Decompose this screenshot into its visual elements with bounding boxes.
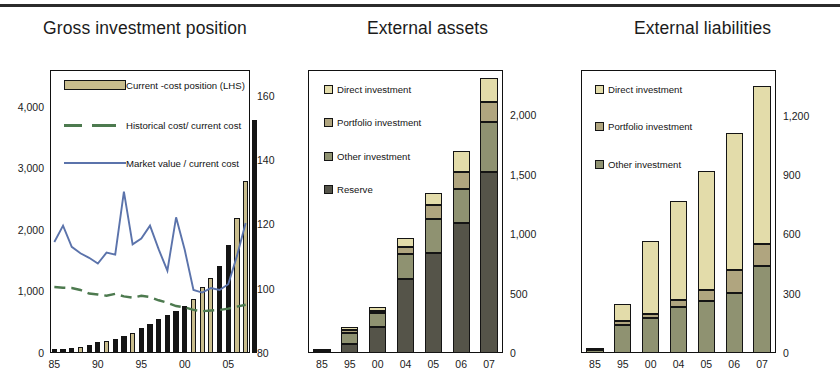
x-axis-tick-06: 06 — [728, 359, 740, 370]
legend-external-liabilities: Direct investmentPortfolio investmentOth… — [595, 84, 692, 196]
legend-item-market-value: Market value / current cost — [64, 158, 239, 170]
segment-direct-investment-04 — [670, 201, 687, 300]
y-axis-right-tick-80: 80 — [257, 348, 269, 359]
line-series-overlay — [50, 70, 250, 353]
line-historical-cost-over-current-cost — [54, 287, 245, 311]
stacked-bar-06 — [453, 151, 470, 353]
stacked-bar-00 — [642, 241, 659, 353]
x-axis-tick-90: 90 — [92, 359, 104, 370]
segment-other-investment-05 — [698, 301, 715, 353]
legend-label-historical-cost: Historical cost/ current cost — [126, 120, 241, 132]
legend-label-market-value: Market value / current cost — [126, 158, 239, 170]
x-axis-tick-00: 00 — [372, 359, 384, 370]
segment-portfolio-investment-04 — [670, 300, 687, 308]
legend-swatch-direct-investment — [324, 85, 333, 94]
segment-direct-investment-95 — [614, 304, 631, 321]
segment-direct-investment-00 — [642, 241, 659, 314]
stacked-bar-06 — [726, 133, 743, 353]
legend-label-portfolio-investment: Portfolio investment — [608, 121, 692, 132]
legend-item-current-cost-position: Current -cost position (LHS) — [64, 80, 245, 92]
stacked-bar-07 — [480, 78, 497, 353]
x-axis-tick-06: 06 — [455, 359, 467, 370]
segment-direct-investment-00 — [369, 307, 386, 311]
segment-direct-investment-85 — [586, 348, 603, 350]
legend-external-assets: Direct investmentPortfolio investmentOth… — [324, 84, 421, 218]
top-divider-rule — [0, 4, 840, 7]
segment-direct-investment-05 — [425, 193, 442, 205]
legend-item-other-investment: Other investment — [324, 151, 421, 162]
segment-direct-investment-07 — [753, 86, 770, 244]
y-axis-left-tick-1,000: 1,000 — [6, 286, 44, 297]
legend-item-portfolio-investment: Portfolio investment — [324, 117, 421, 128]
segment-direct-investment-05 — [698, 171, 715, 290]
x-axis-tick-07: 07 — [756, 359, 768, 370]
segment-portfolio-investment-07 — [753, 244, 770, 266]
legend-item-direct-investment: Direct investment — [595, 84, 692, 95]
line-market-value-over-current-cost — [54, 192, 245, 293]
stacked-bar-05 — [698, 171, 715, 353]
legend-item-other-investment: Other investment — [595, 159, 692, 170]
x-axis-tick-85: 85 — [589, 359, 601, 370]
y-axis-left-tick-3,000: 3,000 — [6, 163, 44, 174]
y-axis-left-tick-4,000: 4,000 — [6, 102, 44, 113]
segment-other-investment-07 — [480, 122, 497, 172]
segment-other-investment-95 — [341, 333, 358, 344]
segment-portfolio-investment-00 — [642, 314, 659, 318]
segment-direct-investment-07 — [480, 78, 497, 102]
stacked-bar-85 — [313, 351, 330, 353]
legend-label-direct-investment: Direct investment — [337, 84, 411, 95]
segment-portfolio-investment-05 — [698, 290, 715, 301]
segment-other-investment-85 — [586, 350, 603, 353]
legend-item-portfolio-investment: Portfolio investment — [595, 121, 692, 132]
y-axis-tick-2,000: 2,000 — [510, 110, 536, 121]
segment-portfolio-investment-07 — [480, 102, 497, 122]
segment-reserve-95 — [341, 344, 358, 353]
stacked-bar-07 — [753, 86, 770, 353]
segment-portfolio-investment-06 — [726, 270, 743, 293]
legend-swatch-historical-cost — [64, 120, 126, 130]
segment-reserve-06 — [453, 223, 470, 353]
segment-direct-investment-85 — [313, 349, 330, 351]
plot-area-gross-investment-position: Current -cost position (LHS) Historical … — [50, 70, 250, 353]
y-axis-right-tick-160: 160 — [257, 90, 275, 101]
y-axis-tick-300: 300 — [783, 288, 801, 299]
stacked-bar-95 — [341, 327, 358, 353]
plot-area-external-assets: Direct investmentPortfolio investmentOth… — [308, 70, 503, 353]
stacked-bar-04 — [670, 201, 687, 353]
legend-swatch-direct-investment — [595, 85, 604, 94]
legend-label-current-cost-position: Current -cost position (LHS) — [126, 80, 245, 92]
legend-label-other-investment: Other investment — [608, 159, 681, 170]
x-axis-tick-05: 05 — [222, 359, 234, 370]
legend-item-reserve: Reserve — [324, 184, 421, 195]
segment-other-investment-04 — [397, 254, 414, 280]
legend-item-direct-investment: Direct investment — [324, 84, 421, 95]
segment-reserve-07 — [480, 172, 497, 353]
y-axis-right-tick-140: 140 — [257, 155, 275, 166]
panel-title-external-assets: External assets — [290, 10, 565, 39]
segment-other-investment-00 — [369, 313, 386, 327]
legend-swatch-portfolio-investment — [595, 122, 604, 131]
panel-external-assets: External assets Direct investmentPortfol… — [290, 10, 565, 389]
segment-direct-investment-95 — [341, 327, 358, 331]
x-axis-tick-00: 00 — [645, 359, 657, 370]
segment-portfolio-investment-05 — [425, 205, 442, 219]
y-axis-tick-0: 0 — [510, 348, 516, 359]
panel-title-external-liabilities: External liabilities — [565, 10, 840, 39]
legend-swatch-other-investment — [324, 152, 333, 161]
legend-label-reserve: Reserve — [337, 184, 373, 195]
x-axis-tick-05: 05 — [428, 359, 440, 370]
stacked-bar-05 — [425, 193, 442, 353]
x-axis-tick-95: 95 — [617, 359, 629, 370]
segment-portfolio-investment-06 — [453, 172, 470, 189]
y-axis-right-tick-100: 100 — [257, 283, 275, 294]
x-axis-tick-85: 85 — [49, 359, 61, 370]
legend-swatch-portfolio-investment — [324, 118, 333, 127]
panel-title-gross-investment-position: Gross investment position — [0, 10, 290, 39]
x-axis-tick-04: 04 — [673, 359, 685, 370]
y-axis-right-tick-120: 120 — [257, 219, 275, 230]
segment-other-investment-06 — [726, 293, 743, 353]
stacked-bar-85 — [586, 349, 603, 353]
stacked-bar-04 — [397, 238, 414, 353]
y-axis-tick-0: 0 — [783, 348, 789, 359]
y-axis-tick-900: 900 — [783, 170, 801, 181]
